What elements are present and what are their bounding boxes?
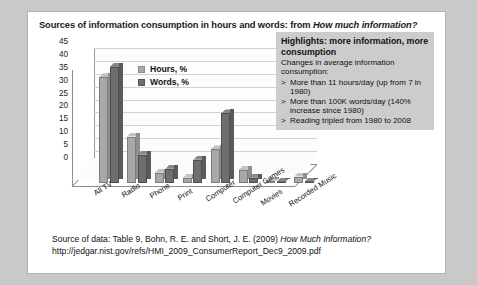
source-line-2: http://jedgar.nist.gov/refs/HMI_2009_Con… — [52, 246, 432, 258]
highlights-item: >More than 11 hours/day (up from 7 in 19… — [281, 78, 429, 97]
bar-hours — [239, 170, 248, 183]
bar-words — [221, 113, 230, 183]
bar-words — [277, 182, 286, 184]
highlights-title: Highlights: more information, more consu… — [281, 36, 429, 57]
y-axis-tick: 0 — [63, 154, 68, 162]
y-axis-tick: 25 — [59, 90, 68, 98]
highlights-list: >More than 11 hours/day (up from 7 in 19… — [281, 78, 429, 125]
y-axis-tick: 45 — [59, 38, 68, 46]
highlights-item-text: Reading tripled from 1980 to 2008 — [290, 116, 411, 125]
x-axis-label: Movies — [259, 186, 284, 207]
bar-hours — [127, 137, 136, 183]
legend-swatch-words-icon — [138, 79, 145, 86]
y-axis-tick: 30 — [59, 77, 68, 85]
bar-words — [110, 67, 119, 183]
bar-side-face — [202, 156, 206, 179]
bar-face — [138, 155, 147, 183]
source-line-1-main: Source of data: Table 9, Bohn, R. E. and… — [52, 234, 280, 244]
bar-face — [183, 178, 192, 183]
bar-hours — [211, 149, 220, 183]
bar-face — [193, 160, 202, 183]
page-title-italic: How much information? — [313, 20, 417, 30]
bar-side-face — [303, 173, 307, 179]
highlights-item-text: More than 11 hours/day (up from 7 in 198… — [290, 78, 421, 96]
y-axis-tick: 15 — [59, 115, 68, 123]
highlights-item-text: More than 100K words/day (140% increase … — [290, 97, 411, 115]
x-axis-label: Print — [176, 186, 194, 202]
source-line-1: Source of data: Table 9, Bohn, R. E. and… — [52, 234, 432, 246]
bar-hours — [183, 178, 192, 183]
bar-side-face — [119, 63, 123, 179]
bar-face — [294, 177, 303, 183]
bullet-marker-icon: > — [281, 116, 286, 125]
y-axis-tick: 5 — [63, 141, 68, 149]
bar-face — [155, 173, 164, 183]
y-axis-tick: 10 — [59, 128, 68, 136]
source-line-1-italic: How Much Information? — [280, 234, 371, 244]
bar-words — [305, 182, 314, 184]
legend-label-words: Words, % — [150, 77, 189, 87]
highlights-item: >More than 100K words/day (140% increase… — [281, 97, 429, 116]
bar-side-face — [314, 178, 318, 180]
legend-item-words: Words, % — [138, 77, 189, 87]
x-axis-label: Phone — [148, 181, 171, 201]
legend-swatch-hours-icon — [138, 66, 145, 73]
highlights-box: Highlights: more information, more consu… — [276, 32, 434, 130]
y-axis-tick: 35 — [59, 64, 68, 72]
y-axis-tick: 40 — [59, 51, 68, 59]
bar-side-face — [286, 178, 290, 180]
y-axis-line — [72, 70, 73, 186]
bar-face — [211, 149, 220, 183]
y-axis-tick: 20 — [59, 102, 68, 110]
bar-hours — [155, 173, 164, 183]
page-title-main: Sources of information consumption in ho… — [39, 20, 313, 30]
bar-side-face — [230, 109, 234, 179]
legend-item-hours: Hours, % — [138, 64, 189, 74]
chart-legend: Hours, % Words, % — [138, 64, 189, 90]
legend-label-hours: Hours, % — [150, 64, 187, 74]
slide-card: Sources of information consumption in ho… — [27, 11, 446, 274]
bar-words — [138, 155, 147, 183]
bar-side-face — [147, 151, 151, 179]
bar-face — [221, 113, 230, 183]
bar-hours — [99, 77, 108, 183]
highlights-item: >Reading tripled from 1980 to 2008 — [281, 116, 429, 125]
bar-side-face — [174, 165, 178, 179]
y-axis: 051015202530354045 — [38, 42, 68, 174]
bullet-marker-icon: > — [281, 78, 286, 87]
bar-face — [110, 67, 119, 183]
bar-face — [127, 137, 136, 183]
bar-face — [99, 77, 108, 183]
bar-face — [239, 170, 248, 183]
page-title: Sources of information consumption in ho… — [39, 20, 439, 30]
bullet-marker-icon: > — [281, 97, 286, 106]
bar-hours — [294, 177, 303, 183]
highlights-subtitle: Changes in average information consumpti… — [281, 58, 429, 77]
bar-words — [193, 160, 202, 183]
x-axis-label: Radio — [120, 181, 142, 199]
source-note: Source of data: Table 9, Bohn, R. E. and… — [52, 234, 432, 257]
x-axis-label: All TV — [92, 179, 114, 198]
